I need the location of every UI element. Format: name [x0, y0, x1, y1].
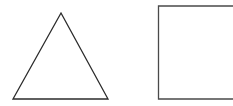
shapes-figure	[0, 0, 233, 106]
shapes-canvas	[0, 0, 233, 106]
canvas-background	[0, 0, 233, 106]
